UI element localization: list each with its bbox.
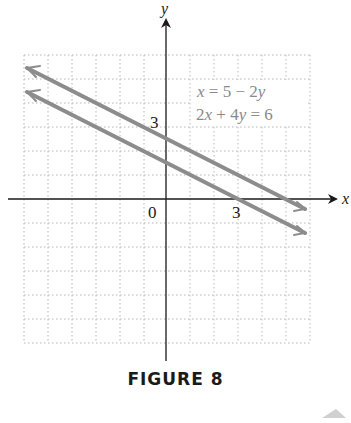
scan-artifact	[322, 409, 346, 418]
x-tick-3: 3	[232, 203, 241, 222]
equation-1-label: x = 5 − 2y	[196, 82, 266, 101]
graph: y x 0 3 3 x = 5 − 2y 2x + 4y = 6	[0, 0, 351, 423]
x-axis-label: x	[341, 190, 349, 207]
origin-label: 0	[148, 203, 157, 222]
figure-caption: FIGURE 8	[0, 369, 351, 389]
y-axis-label: y	[159, 0, 169, 18]
equation-2-label: 2x + 4y = 6	[196, 105, 273, 124]
y-tick-3: 3	[150, 113, 159, 132]
